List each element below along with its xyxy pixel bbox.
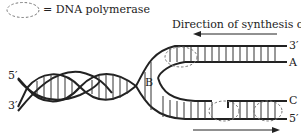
legend-polymerase-icon <box>7 3 39 18</box>
label-5prime-right: 5′ <box>289 113 299 124</box>
legend-label: = DNA polymerase <box>43 4 150 15</box>
label-strand-a: A <box>289 57 297 68</box>
label-3prime-right: 3′ <box>289 40 299 51</box>
synthesis-direction-label: Direction of synthesis of A <box>172 19 301 30</box>
helix-rungs <box>37 74 127 101</box>
label-3prime-left: 3′ <box>8 100 18 111</box>
label-strand-c: C <box>289 95 297 106</box>
label-5prime-left: 5′ <box>8 70 18 81</box>
synthesis-direction-arrow-top <box>193 31 277 37</box>
polymerase-markers <box>165 47 282 121</box>
label-fork-b: B <box>145 77 153 88</box>
synthesis-direction-arrow-bottom <box>193 127 280 133</box>
